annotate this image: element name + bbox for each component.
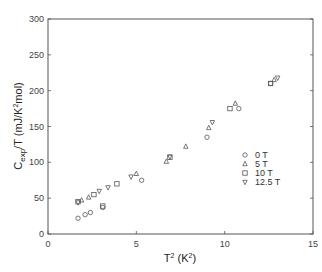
- data-point-triangle-down-icon: [275, 76, 279, 80]
- data-points: [76, 76, 280, 220]
- y-tick-label: 100: [29, 157, 44, 167]
- data-point-circle-icon: [83, 212, 87, 216]
- y-tick-label: 50: [34, 193, 44, 203]
- x-axis-title: T2 (K2): [164, 252, 196, 264]
- scatter-chart: 050100150200250300 051015 0 T5 T10 T12.5…: [0, 0, 322, 272]
- legend: 0 T5 T10 T12.5 T: [243, 150, 281, 187]
- data-point-triangle-up-icon: [233, 101, 237, 105]
- data-point-triangle-up-icon: [134, 171, 138, 175]
- y-tick-label: 200: [29, 86, 44, 96]
- data-point-triangle-down-icon: [97, 189, 101, 193]
- data-point-triangle-up-icon: [207, 125, 211, 129]
- series-5-T: [79, 77, 276, 202]
- x-tick-label: 0: [45, 239, 50, 249]
- series-0-T: [76, 81, 273, 220]
- data-point-triangle-down-icon: [168, 155, 172, 159]
- data-point-triangle-down-icon: [129, 175, 133, 179]
- data-point-square-icon: [92, 192, 96, 196]
- data-point-triangle-up-icon: [184, 144, 188, 148]
- data-point-circle-icon: [139, 178, 143, 182]
- legend-circle-icon: [243, 153, 247, 157]
- data-point-circle-icon: [76, 216, 80, 220]
- x-tick-label: 15: [308, 239, 318, 249]
- series-10-T: [76, 81, 273, 208]
- data-point-circle-icon: [205, 135, 209, 139]
- y-tick-label: 250: [29, 50, 44, 60]
- y-tick-label: 0: [39, 229, 44, 239]
- data-point-circle-icon: [101, 205, 105, 209]
- y-axis-title: Cexp/T (mJ/K2mol): [12, 82, 27, 170]
- data-point-triangle-down-icon: [76, 201, 80, 205]
- y-tick-label: 150: [29, 122, 44, 132]
- data-point-circle-icon: [237, 106, 241, 110]
- data-point-triangle-up-icon: [86, 195, 90, 199]
- y-tick-label: 300: [29, 14, 44, 24]
- plot-frame: [48, 19, 313, 234]
- legend-triangle-down-icon: [243, 180, 247, 184]
- x-tick-label: 10: [220, 239, 230, 249]
- legend-triangle-up-icon: [243, 161, 247, 165]
- y-axis-ticks: 050100150200250300: [29, 14, 313, 239]
- data-point-square-icon: [228, 106, 232, 110]
- legend-label: 12.5 T: [255, 177, 281, 187]
- data-point-circle-icon: [88, 210, 92, 214]
- data-point-triangle-down-icon: [210, 121, 214, 125]
- legend-square-icon: [243, 171, 247, 175]
- data-point-square-icon: [115, 182, 119, 186]
- x-tick-label: 5: [134, 239, 139, 249]
- data-point-triangle-down-icon: [106, 186, 110, 190]
- series-12_5-T: [76, 76, 280, 205]
